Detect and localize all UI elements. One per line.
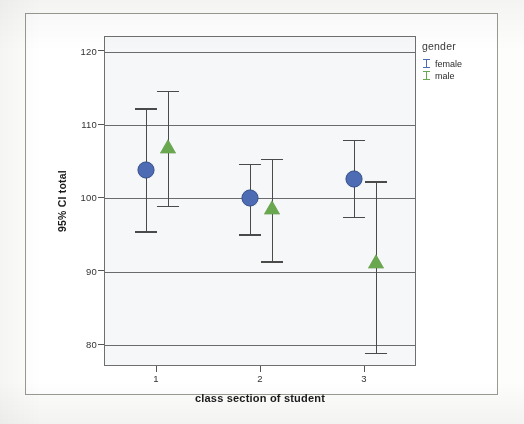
y-axis-tick-label: 120	[81, 45, 97, 56]
y-axis-tick-label: 110	[81, 119, 97, 130]
error-bar-cap-upper	[261, 159, 283, 160]
y-axis-title: 95% CI total	[54, 36, 70, 366]
x-axis-tick-label: 1	[153, 373, 158, 384]
x-axis-ticks: 123	[104, 366, 416, 390]
error-bar-cap-upper	[239, 164, 261, 165]
legend-items: femalemale	[422, 58, 500, 81]
legend-key-icon	[422, 70, 431, 81]
x-axis-title: class section of student	[104, 392, 416, 404]
error-bar-cap-upper	[365, 181, 387, 182]
error-bar-cap-lower	[365, 353, 387, 354]
error-bar-cap-lower	[135, 231, 157, 232]
data-point-male-1[interactable]	[160, 140, 176, 154]
gridline	[105, 125, 415, 126]
y-axis-tick-label: 90	[86, 265, 97, 276]
legend-item-label: female	[435, 59, 462, 69]
chart-outer-frame: 95% CI total 1201101009080 123 class sec…	[25, 13, 498, 395]
error-bar-cap-upper	[135, 108, 157, 109]
gridline	[105, 272, 415, 273]
data-point-female-2[interactable]	[242, 190, 259, 207]
x-axis-tick-label: 3	[361, 373, 366, 384]
y-axis-title-label: 95% CI total	[56, 170, 68, 232]
error-bar-cap-upper	[343, 140, 365, 141]
gridline	[105, 198, 415, 199]
y-axis-tick-label: 80	[86, 339, 97, 350]
error-bar-cap-lower	[343, 217, 365, 218]
plot-area	[104, 36, 416, 366]
data-point-male-3[interactable]	[368, 254, 384, 268]
x-axis-tick-label: 2	[257, 373, 262, 384]
x-axis-tick-mark	[156, 366, 157, 372]
scanned-page: 95% CI total 1201101009080 123 class sec…	[0, 0, 524, 424]
error-bar-cap-lower	[239, 234, 261, 235]
error-bar-cap-lower	[261, 261, 283, 262]
data-point-female-3[interactable]	[346, 170, 363, 187]
x-axis-tick-mark	[364, 366, 365, 372]
legend: gender femalemale	[422, 40, 500, 82]
legend-title: gender	[422, 40, 500, 52]
gridline	[105, 345, 415, 346]
data-point-female-1[interactable]	[138, 162, 155, 179]
legend-item-male[interactable]: male	[422, 70, 500, 81]
y-axis-tick-label: 100	[81, 192, 97, 203]
x-axis-tick-mark	[260, 366, 261, 372]
plot-inner	[105, 37, 415, 365]
legend-key-icon	[422, 58, 431, 69]
data-point-male-2[interactable]	[264, 200, 280, 214]
gridline	[105, 52, 415, 53]
y-axis-ticks: 1201101009080	[74, 36, 104, 366]
legend-item-female[interactable]: female	[422, 58, 500, 69]
legend-item-label: male	[435, 71, 455, 81]
error-bar-cap-lower	[157, 206, 179, 207]
error-bar-cap-upper	[157, 91, 179, 92]
